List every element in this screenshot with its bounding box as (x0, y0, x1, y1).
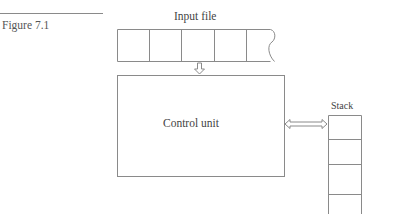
input-tape (118, 30, 275, 62)
input-file-label: Input file (174, 10, 216, 22)
stack-label: Stack (331, 100, 353, 111)
stack (329, 116, 362, 215)
double-arrow-icon (285, 120, 327, 129)
down-arrow-icon (195, 63, 205, 74)
tape-wavy-break (269, 30, 275, 62)
control-unit-label: Control unit (163, 117, 219, 129)
